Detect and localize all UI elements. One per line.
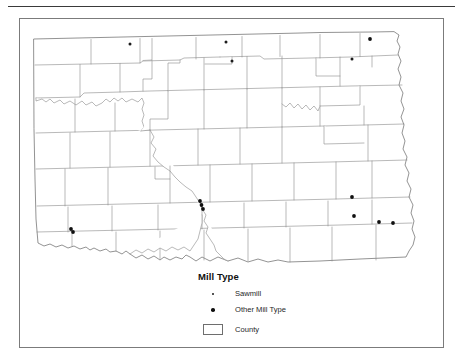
legend-item-label: County	[228, 325, 259, 335]
legend-item-sawmill: Sawmill	[198, 287, 428, 301]
county-swatch-icon	[198, 324, 228, 335]
sawmill-point	[225, 41, 228, 44]
other-mill-point	[198, 199, 202, 203]
other-mill-point	[201, 207, 205, 211]
other-mill-dot-icon	[198, 308, 228, 312]
legend-item-label: Other Mill Type	[228, 305, 286, 315]
sawmill-dot-icon	[198, 293, 228, 295]
legend-item-county: County	[198, 322, 428, 337]
legend-item-label: Sawmill	[228, 289, 261, 299]
sawmill-point	[351, 58, 354, 61]
other-mill-point	[200, 203, 204, 207]
other-mill-point	[71, 230, 75, 234]
state-outline	[34, 32, 415, 262]
figure-frame: Mill Type Sawmill Other Mill Type County	[19, 18, 444, 348]
map-canvas	[20, 19, 445, 269]
north-dakota-county-map	[20, 19, 445, 269]
legend-title: Mill Type	[198, 271, 428, 282]
county-polygons	[34, 32, 415, 262]
sawmill-point	[231, 60, 234, 63]
other-mill-point	[391, 221, 395, 225]
other-mill-point	[368, 37, 372, 41]
legend-item-other-mill-type: Other Mill Type	[198, 303, 428, 317]
sawmill-point	[129, 43, 132, 46]
header-divider	[8, 6, 455, 7]
other-mill-point	[377, 220, 381, 224]
other-mill-point	[352, 214, 356, 218]
other-mill-point	[350, 195, 354, 199]
